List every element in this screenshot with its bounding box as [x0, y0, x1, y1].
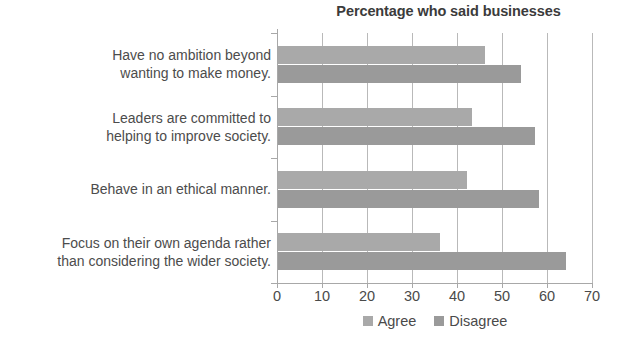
legend-label: Disagree — [449, 313, 507, 329]
legend-swatch-icon — [363, 316, 373, 326]
category-label: Have no ambition beyond wanting to make … — [112, 46, 271, 82]
x-tick-label: 0 — [273, 288, 281, 304]
y-tick-mark — [271, 96, 277, 97]
legend-label: Agree — [378, 313, 417, 329]
bar-disagree — [278, 252, 566, 270]
legend-item-agree[interactable]: Agree — [363, 313, 417, 329]
y-tick-mark — [271, 158, 277, 159]
x-tick-label: 70 — [584, 288, 600, 304]
bar-agree — [278, 108, 472, 126]
x-tick-label: 20 — [359, 288, 375, 304]
y-tick-mark — [271, 283, 277, 284]
x-tick-label: 60 — [539, 288, 555, 304]
horizontal-bar-chart: Percentage who said businesses AgreeDisa… — [0, 0, 620, 342]
bar-agree — [278, 233, 440, 251]
chart-legend: AgreeDisagree — [277, 313, 593, 329]
bar-agree — [278, 171, 467, 189]
category-label: Focus on their own agenda rather than co… — [57, 234, 271, 270]
y-tick-mark — [271, 33, 277, 34]
bar-disagree — [278, 127, 535, 145]
x-tick-label: 40 — [449, 288, 465, 304]
bar-disagree — [278, 65, 521, 83]
bar-disagree — [278, 190, 539, 208]
x-axis-line — [277, 283, 593, 284]
plot-area — [277, 33, 592, 283]
chart-title: Percentage who said businesses — [281, 3, 616, 19]
category-label: Leaders are committed to helping to impr… — [106, 109, 271, 145]
category-label: Behave in an ethical manner. — [90, 180, 271, 198]
x-tick-label: 10 — [314, 288, 330, 304]
legend-swatch-icon — [434, 316, 444, 326]
x-gridline — [547, 33, 548, 283]
y-tick-mark — [271, 221, 277, 222]
x-gridline — [592, 33, 593, 283]
legend-item-disagree[interactable]: Disagree — [434, 313, 507, 329]
x-tick-label: 50 — [494, 288, 510, 304]
bar-agree — [278, 46, 485, 64]
x-tick-label: 30 — [404, 288, 420, 304]
